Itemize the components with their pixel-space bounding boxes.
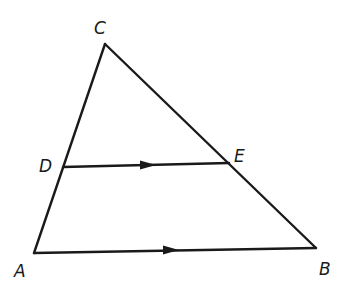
- parallel-arrow-icon-DE: [140, 161, 156, 170]
- label-B: B: [319, 259, 331, 279]
- label-D: D: [39, 156, 52, 176]
- label-A: A: [13, 261, 26, 281]
- side-AC: [34, 44, 105, 253]
- side-CB: [105, 44, 316, 248]
- label-E: E: [234, 146, 245, 166]
- parallel-arrow-icon-AB: [163, 246, 179, 255]
- triangle-diagram: C D E A B: [0, 0, 351, 294]
- label-C: C: [94, 18, 106, 38]
